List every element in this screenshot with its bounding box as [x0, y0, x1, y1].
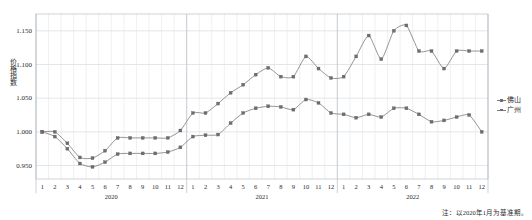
- legend-swatch-icon: [497, 108, 506, 113]
- y-tick-label: 1.100: [6, 61, 32, 69]
- y-tick-label: 1.000: [6, 128, 32, 136]
- chart-note: 注：以2020年1月为基准期。: [442, 207, 528, 217]
- x-tick-label: 12: [475, 183, 489, 190]
- legend-item-1[interactable]: 佛山: [497, 96, 521, 106]
- legend-label: 广州: [507, 106, 521, 116]
- legend-label: 佛山: [507, 96, 521, 106]
- x-axis-year-label: 2020: [96, 193, 126, 200]
- y-tick-label: 1.050: [6, 94, 32, 102]
- chart-legend: 佛山广州: [497, 96, 521, 115]
- price-index-chart: 价格指数 0.9501.0001.0501.1001.150 123456789…: [0, 0, 532, 220]
- y-tick-label: 1.150: [6, 27, 32, 35]
- x-axis-year-label: 2021: [247, 193, 277, 200]
- y-tick-label: 0.950: [6, 162, 32, 170]
- x-axis-year-label: 2022: [398, 193, 428, 200]
- legend-swatch-icon: [497, 98, 506, 103]
- legend-item-2[interactable]: 广州: [497, 106, 521, 116]
